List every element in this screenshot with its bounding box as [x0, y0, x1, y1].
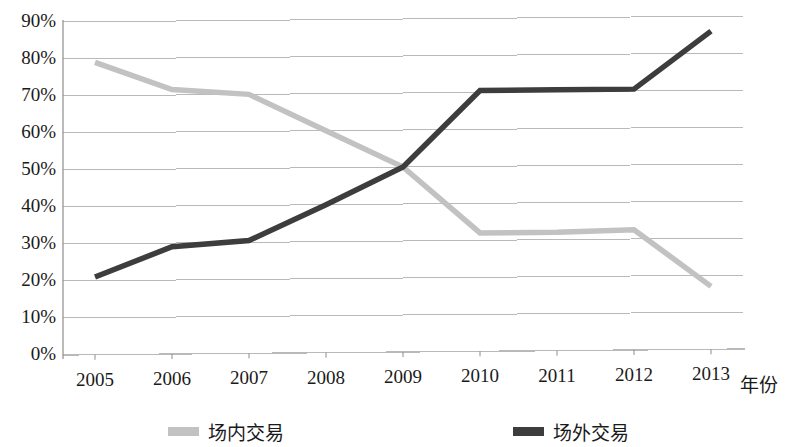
series-line-otc: [95, 31, 711, 277]
y-tick-label: 20%: [0, 269, 56, 291]
x-tick-label: 2007: [217, 367, 281, 389]
legend-label-on-exchange: 场内交易: [208, 418, 284, 445]
y-tick-label: 0%: [0, 343, 56, 365]
y-tick-label: 50%: [0, 158, 56, 180]
x-tick-label: 2008: [294, 367, 358, 389]
line-chart: 90%80%70%60%50%40%30%20%10%0% 2005200620…: [0, 0, 787, 447]
gridline: [63, 349, 745, 355]
legend-label-otc: 场外交易: [553, 418, 629, 445]
y-tick-label: 30%: [0, 232, 56, 254]
legend-item-otc: 场外交易: [513, 418, 629, 445]
y-tick-label: 60%: [0, 121, 56, 143]
y-tick-label: 10%: [0, 306, 56, 328]
gridline: [63, 16, 745, 22]
gridline: [63, 312, 745, 318]
data-series-layer: [95, 31, 711, 286]
y-tick-label: 90%: [0, 10, 56, 32]
legend-swatch-otc: [513, 427, 544, 436]
gridlines: [63, 16, 745, 355]
gridline: [63, 201, 745, 207]
x-tick-label: 2013: [679, 363, 743, 385]
x-tick-label: 2012: [602, 364, 666, 386]
gridline: [63, 90, 745, 96]
gridline: [63, 127, 745, 133]
x-tick-label: 2005: [63, 369, 127, 391]
y-tick-label: 70%: [0, 84, 56, 106]
y-tick-label: 80%: [0, 47, 56, 69]
x-axis-title: 年份: [740, 370, 778, 397]
gridline: [63, 53, 745, 59]
legend-item-on-exchange: 场内交易: [168, 418, 284, 445]
series-line-on-exchange: [95, 62, 711, 286]
x-tick-label: 2011: [525, 365, 589, 387]
x-tick-label: 2009: [371, 366, 435, 388]
x-tick-label: 2006: [140, 368, 204, 390]
x-tick-label: 2010: [448, 365, 512, 387]
gridline: [63, 275, 745, 281]
legend-swatch-on-exchange: [168, 427, 199, 436]
chart-legend: 场内交易 场外交易: [0, 414, 787, 447]
y-tick-label: 40%: [0, 195, 56, 217]
